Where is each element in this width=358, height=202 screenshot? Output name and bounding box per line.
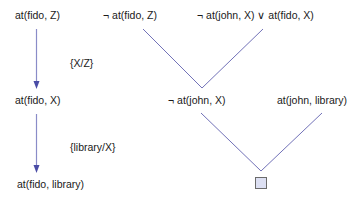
resolution-step-1 (143, 29, 263, 88)
resolution-step-2 (201, 113, 322, 171)
substitution-library-X: {library/X} (70, 141, 116, 153)
node-at-fido-library: at(fido, library) (17, 178, 84, 190)
clause-at-john-library: at(john, library) (277, 94, 347, 106)
clause-not-at-fido-Z: ¬ at(fido, Z) (103, 9, 157, 21)
node-at-fido-Z: at(fido, Z) (15, 9, 60, 21)
arrow-fidoZ-to-fidoX (34, 29, 40, 89)
arrow-fidoX-to-fidoLibrary (34, 114, 40, 173)
node-at-fido-X: at(fido, X) (15, 94, 61, 106)
substitution-X-Z: {X/Z} (70, 57, 93, 69)
empty-clause-box (255, 177, 267, 189)
clause-not-at-john-X-or-at-fido-X: ¬ at(john, X) ∨ at(fido, X) (197, 9, 314, 21)
clause-not-at-john-X: ¬ at(john, X) (168, 94, 226, 106)
